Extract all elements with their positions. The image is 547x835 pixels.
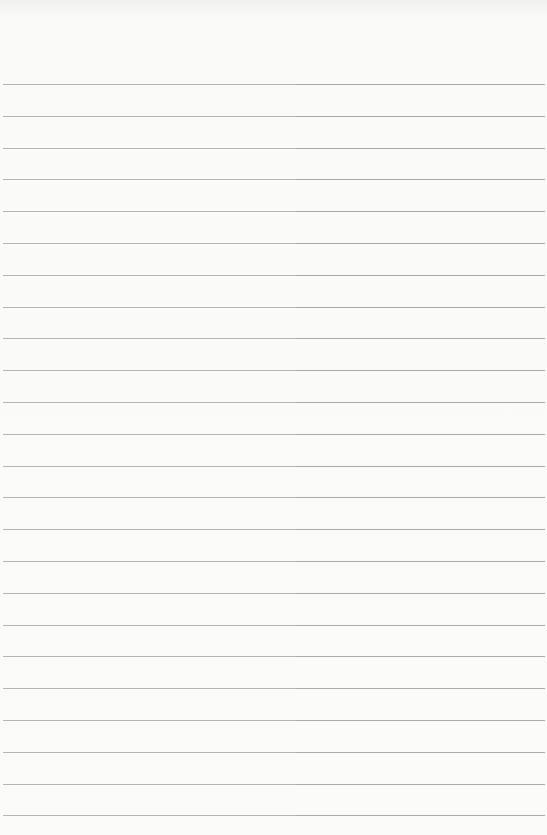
ruled-line [3, 529, 545, 530]
ruled-line [3, 434, 545, 435]
ruled-line [3, 625, 545, 626]
ruled-line [3, 561, 545, 562]
ruled-line [3, 84, 545, 85]
ruled-line [3, 688, 545, 689]
ruled-line [3, 179, 545, 180]
ruled-line [3, 370, 545, 371]
ruled-line [3, 497, 545, 498]
ruled-line [3, 656, 545, 657]
ruled-line [3, 784, 545, 785]
ruled-line [3, 275, 545, 276]
lined-paper-sheet [0, 0, 547, 835]
ruled-line [3, 402, 545, 403]
ruled-line [3, 307, 545, 308]
ruled-line [3, 752, 545, 753]
ruled-line [3, 148, 545, 149]
ruled-line [3, 338, 545, 339]
ruled-line [3, 815, 545, 816]
ruled-line [3, 593, 545, 594]
ruled-line [3, 116, 545, 117]
ruled-line [3, 466, 545, 467]
ruled-line [3, 243, 545, 244]
ruled-line [3, 211, 545, 212]
ruled-line [3, 720, 545, 721]
